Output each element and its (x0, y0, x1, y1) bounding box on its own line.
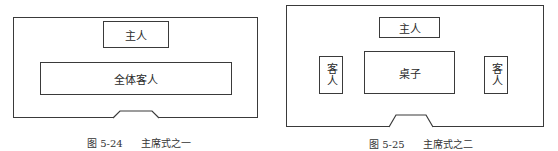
all-guests-label: 全体客人 (114, 71, 158, 87)
left-guest-seat: 客人 (319, 56, 343, 94)
right-guest-label: 客人 (488, 63, 504, 87)
door-icon (110, 108, 162, 119)
caption-title: 主席式之一 (141, 135, 191, 150)
host-label: 主人 (399, 20, 421, 36)
right-guest-seat: 客人 (484, 56, 508, 94)
figure-caption: 图 5-24 主席式之一 (87, 135, 191, 150)
table: 桌子 (364, 51, 455, 94)
caption-number: 图 5-25 (369, 136, 405, 151)
left-guest-label: 客人 (323, 63, 339, 87)
table-label: 桌子 (399, 65, 421, 81)
host-seat: 主人 (103, 21, 169, 48)
caption-number: 图 5-24 (87, 135, 123, 150)
figure-caption: 图 5-25 主席式之二 (369, 136, 473, 151)
host-seat: 主人 (379, 17, 440, 38)
all-guests-area: 全体客人 (40, 62, 232, 95)
door-icon (387, 113, 437, 128)
caption-title: 主席式之二 (423, 136, 473, 151)
host-label: 主人 (125, 27, 147, 43)
